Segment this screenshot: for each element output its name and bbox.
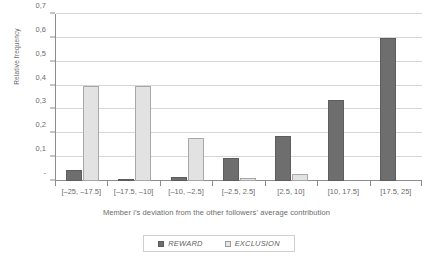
bar-reward: [328, 100, 344, 181]
y-axis-label: 0,6: [36, 24, 46, 33]
relative-frequency-bar-chart: Relative frequency -0,10,20,30,40,50,60,…: [0, 0, 433, 261]
x-tick-mark: [317, 181, 318, 186]
legend-item-exclusion[interactable]: EXCLUSION: [225, 239, 280, 248]
x-axis-title: Member i’s deviation from the other foll…: [0, 208, 433, 217]
bar-exclusion: [135, 86, 151, 181]
x-tick-mark: [160, 181, 161, 186]
y-axis-tick-labels: -0,10,20,30,40,50,60,7: [0, 14, 55, 181]
y-axis-label: 0,4: [36, 72, 46, 81]
plot-area: [55, 14, 422, 181]
y-axis-label: 0,3: [36, 96, 46, 105]
x-tick-mark: [55, 181, 56, 186]
bar-exclusion: [83, 86, 99, 181]
x-axis-label: [17.5, 25]: [380, 187, 411, 196]
bar-reward: [380, 38, 396, 181]
x-tick-mark: [265, 181, 266, 186]
x-tick-mark: [370, 181, 371, 186]
x-axis-label: [2.5, 10]: [277, 187, 304, 196]
bar-reward: [223, 158, 239, 181]
x-axis-label: [–17.5, –10]: [114, 187, 154, 196]
legend-swatch-reward-icon: [158, 241, 164, 247]
y-axis-label: -: [44, 168, 47, 177]
chart-legend: REWARDEXCLUSION: [143, 235, 295, 252]
x-axis-label: [–10, –2.5]: [168, 187, 203, 196]
bar-reward: [275, 136, 291, 181]
x-axis-ticks: [55, 181, 422, 186]
legend-swatch-exclusion-icon: [225, 241, 231, 247]
y-axis-label: 0,1: [36, 144, 46, 153]
bars-layer: [56, 14, 422, 181]
x-tick-mark: [421, 181, 422, 186]
x-tick-mark: [107, 181, 108, 186]
y-axis-label: 0,2: [36, 120, 46, 129]
y-axis-label: 0,7: [36, 1, 46, 10]
x-tick-mark: [212, 181, 213, 186]
legend-item-reward[interactable]: REWARD: [158, 239, 202, 248]
legend-label: REWARD: [168, 239, 202, 248]
bar-reward: [66, 170, 82, 181]
bar-exclusion: [292, 174, 308, 181]
x-axis-label: [–2.5, 2.5]: [222, 187, 255, 196]
y-axis-label: 0,5: [36, 48, 46, 57]
bar-exclusion: [188, 138, 204, 181]
x-axis-tick-labels: [–25, –17.5][–17.5, –10][–10, –2.5][–2.5…: [55, 187, 422, 201]
x-axis-label: [–25, –17.5]: [61, 187, 101, 196]
legend-label: EXCLUSION: [235, 239, 280, 248]
x-axis-label: [10, 17.5]: [328, 187, 359, 196]
